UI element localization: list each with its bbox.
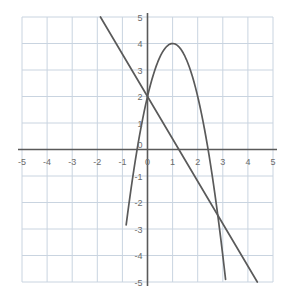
- coordinate-plane-graph: -5-4-3-2-1012345543210-1-2-3-4-5: [0, 0, 287, 293]
- y-tick-label: 0: [137, 140, 142, 150]
- y-tick-label: 5: [137, 13, 142, 23]
- y-tick-label: -5: [134, 278, 142, 288]
- y-tick-label: -1: [134, 172, 142, 182]
- axes: [18, 13, 277, 286]
- y-tick-label: -2: [134, 198, 142, 208]
- x-tick-label: -2: [93, 157, 101, 167]
- x-tick-label: 3: [220, 157, 225, 167]
- y-tick-label: 2: [137, 92, 142, 102]
- y-tick-label: 4: [137, 39, 142, 49]
- x-tick-label: 1: [170, 157, 175, 167]
- x-tick-label: -3: [68, 157, 76, 167]
- y-tick-label: -3: [134, 225, 142, 235]
- x-tick-label: -4: [43, 157, 51, 167]
- x-tick-label: -1: [118, 157, 126, 167]
- y-tick-label: -4: [134, 251, 142, 261]
- x-tick-label: -5: [18, 157, 26, 167]
- x-tick-label: 4: [245, 157, 250, 167]
- curve-parabola: [126, 44, 225, 280]
- x-tick-label: 0: [145, 157, 150, 167]
- y-tick-label: 3: [137, 66, 142, 76]
- x-tick-label: 5: [270, 157, 275, 167]
- y-tick-label: 1: [137, 119, 142, 129]
- x-tick-label: 2: [195, 157, 200, 167]
- chart-canvas: -5-4-3-2-1012345543210-1-2-3-4-5: [0, 0, 287, 293]
